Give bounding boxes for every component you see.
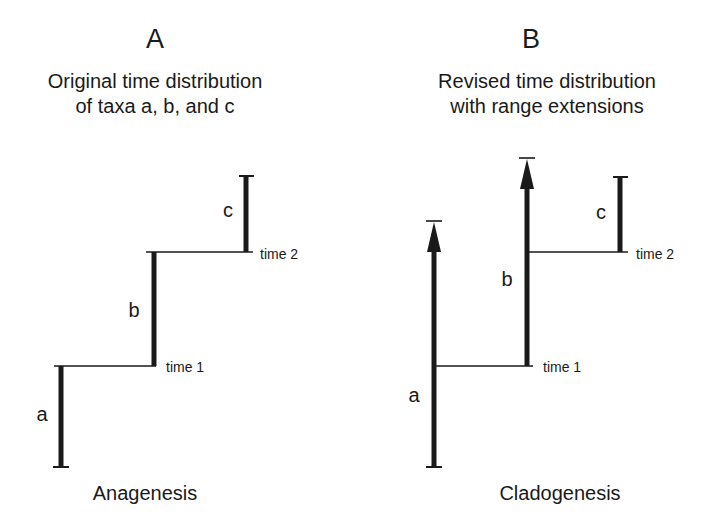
panel-a-letter: A bbox=[146, 24, 164, 54]
panel-b-caption: Cladogenesis bbox=[499, 482, 620, 504]
panel-a-time2-label: time 2 bbox=[260, 246, 298, 262]
panel-b-title-line2: with range extensions bbox=[449, 95, 643, 117]
panel-b-letter: B bbox=[522, 24, 540, 54]
panel-a-time1-label: time 1 bbox=[166, 359, 204, 375]
panel-a-title-line2: of taxa a, b, and c bbox=[76, 95, 235, 117]
panel-a-range-a bbox=[53, 366, 69, 467]
panel-a-caption: Anagenesis bbox=[93, 482, 198, 504]
diagram-canvas: A Original time distribution of taxa a, … bbox=[0, 0, 715, 519]
panel-a-label-b: b bbox=[128, 299, 139, 321]
panel-b-label-a: a bbox=[408, 384, 420, 406]
panel-b: B Revised time distribution with range e… bbox=[408, 24, 674, 504]
panel-b-label-b: b bbox=[501, 268, 512, 290]
panel-b-label-c: c bbox=[596, 201, 606, 223]
panel-a-label-c: c bbox=[223, 199, 233, 221]
panel-a-title-line1: Original time distribution bbox=[48, 70, 263, 92]
arrow-up-icon bbox=[520, 159, 534, 189]
panel-b-title-line1: Revised time distribution bbox=[438, 70, 656, 92]
arrow-up-icon bbox=[427, 222, 441, 252]
panel-b-range-a bbox=[426, 221, 442, 467]
panel-a: A Original time distribution of taxa a, … bbox=[36, 24, 298, 504]
panel-b-range-c bbox=[613, 177, 628, 252]
panel-b-range-b bbox=[519, 158, 535, 366]
panel-a-label-a: a bbox=[36, 403, 48, 425]
panel-b-time2-label: time 2 bbox=[636, 246, 674, 262]
panel-a-range-c bbox=[239, 176, 254, 252]
panel-b-time1-label: time 1 bbox=[543, 359, 581, 375]
